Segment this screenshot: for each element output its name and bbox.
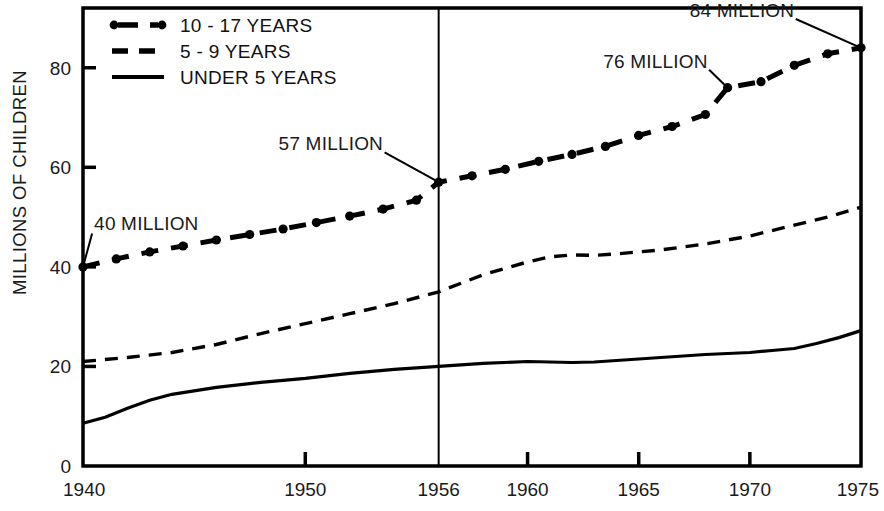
- data-point-marker: [379, 205, 388, 214]
- annotation: 76 MILLION: [603, 51, 727, 88]
- data-point-marker: [856, 43, 865, 52]
- annotation-leader-line: [796, 19, 861, 48]
- legend-swatch-dot: [110, 21, 119, 30]
- x-tick-label: 1940: [63, 479, 105, 500]
- x-tick-label: 1975: [837, 479, 879, 500]
- data-point-marker: [790, 61, 799, 70]
- annotation-label: 76 MILLION: [603, 51, 707, 72]
- data-point-marker: [823, 49, 832, 58]
- legend-label: 5 - 9 YEARS: [180, 41, 291, 62]
- annotation-label: 57 MILLION: [279, 133, 383, 154]
- data-point-marker: [668, 122, 677, 131]
- data-point-marker: [312, 218, 321, 227]
- y-tick-label: 0: [60, 456, 71, 477]
- x-tick-label: 1960: [506, 479, 548, 500]
- x-axis-ticks: 1940195019561960196519701975: [63, 452, 879, 500]
- legend-item-2: 5 - 9 YEARS: [112, 41, 291, 62]
- chart-legend: 10 - 17 YEARS5 - 9 YEARSUNDER 5 YEARS: [110, 15, 337, 88]
- legend-item-1: 10 - 17 YEARS: [110, 15, 313, 36]
- x-tick-label: 1965: [618, 479, 660, 500]
- data-point-marker: [245, 230, 254, 239]
- data-point-marker: [501, 165, 510, 174]
- series-line: [83, 207, 861, 361]
- data-point-marker: [534, 157, 543, 166]
- series-line: [83, 331, 861, 424]
- data-point-marker: [701, 110, 710, 119]
- data-point-marker: [178, 241, 187, 250]
- data-point-marker: [145, 247, 154, 256]
- data-point-marker: [601, 142, 610, 151]
- x-tick-label: 1956: [418, 479, 460, 500]
- data-point-marker: [212, 235, 221, 244]
- annotation-leader-line: [709, 70, 728, 88]
- legend-label: 10 - 17 YEARS: [180, 15, 312, 36]
- y-tick-label: 80: [50, 58, 71, 79]
- data-point-marker: [756, 77, 765, 86]
- data-point-marker: [112, 254, 121, 263]
- annotation-leader-line: [385, 152, 439, 182]
- data-point-marker: [412, 196, 421, 205]
- data-point-marker: [279, 224, 288, 233]
- data-point-marker: [634, 131, 643, 140]
- annotation-label: 84 MILLION: [690, 0, 794, 21]
- annotation: 40 MILLION: [83, 213, 199, 267]
- line-chart-figure: 020406080 1940195019561960196519701975 M…: [0, 0, 884, 511]
- y-tick-label: 40: [50, 257, 71, 278]
- legend-label: UNDER 5 YEARS: [180, 67, 337, 88]
- series-3: [83, 331, 861, 424]
- series-2: [83, 207, 861, 361]
- x-tick-label: 1970: [729, 479, 771, 500]
- data-point-marker: [467, 171, 476, 180]
- data-point-marker: [567, 150, 576, 159]
- y-tick-label: 60: [50, 157, 71, 178]
- legend-swatch-dot: [158, 21, 167, 30]
- x-tick-label: 1950: [284, 479, 326, 500]
- annotation: 57 MILLION: [279, 133, 439, 182]
- y-tick-label: 20: [50, 356, 71, 377]
- chart-container: 020406080 1940195019561960196519701975 M…: [0, 0, 884, 511]
- legend-item-3: UNDER 5 YEARS: [112, 67, 337, 88]
- y-axis-title: MILLIONS OF CHILDREN: [9, 70, 30, 295]
- annotation-label: 40 MILLION: [94, 213, 198, 234]
- data-point-marker: [345, 212, 354, 221]
